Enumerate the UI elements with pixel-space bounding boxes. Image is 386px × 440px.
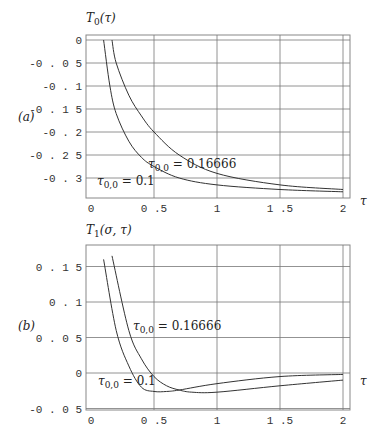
y-tick-label: -0 . 2 [42, 127, 82, 139]
annotation-b-2: τ0,0 = 0.1 [98, 374, 156, 390]
x-tick-label: 0 .5 [141, 415, 167, 427]
y-tick-label: -0 . 1 5 [29, 104, 82, 116]
y-tick-label: -0 . 1 [42, 81, 82, 93]
xlabel-b: τ [360, 374, 367, 388]
x-tick-label: 1 [214, 203, 221, 215]
y-tick-label: -0 . 3 [42, 173, 82, 185]
y-tick-label: -0 . 0 5 [29, 404, 82, 416]
x-tick-label: 1 [214, 415, 221, 427]
panel-label-b: (b) [18, 319, 35, 333]
x-tick-label: 2 [340, 415, 347, 427]
xlabel-a: τ [360, 194, 367, 208]
x-tick-label: 2 [340, 203, 347, 215]
x-tick-label: 0 [88, 203, 95, 215]
y-tick-label: 0 [75, 368, 82, 380]
annotation-b-1: τ0,0 = 0.16666 [133, 319, 221, 335]
x-tick-label: 1 .5 [267, 203, 293, 215]
y-tick-label: 0 [75, 35, 82, 47]
annotation-a-1: τ0,0 = 0.16666 [148, 157, 236, 173]
annotation-a-2: τ0,0 = 0.1 [97, 174, 155, 190]
chart-panel-a: 00 .511 .520-0 . 0 5-0 . 1-0 . 1 5-0 . 2… [29, 35, 350, 215]
ylabel-b: T1(σ, τ) [86, 223, 132, 239]
y-tick-label: -0 . 2 5 [29, 150, 82, 162]
figure: 00 .511 .520-0 . 0 5-0 . 1-0 . 1 5-0 . 2… [0, 0, 386, 440]
x-tick-label: 0 .5 [141, 203, 167, 215]
chart-panel-b: 00 .511 .520 . 1 50 . 10 . 0 50-0 . 0 5 [29, 245, 350, 427]
y-tick-label: 0 . 0 5 [36, 333, 82, 345]
panel-label-a: (a) [18, 110, 35, 124]
x-tick-label: 0 [88, 415, 95, 427]
ylabel-a: T0(τ) [86, 11, 116, 27]
y-tick-label: -0 . 0 5 [29, 58, 82, 70]
x-tick-label: 1 .5 [267, 415, 293, 427]
y-tick-label: 0 . 1 [49, 297, 82, 309]
y-tick-label: 0 . 1 5 [36, 262, 82, 274]
